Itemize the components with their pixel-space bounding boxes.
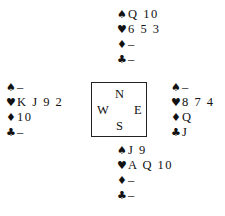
compass-north: N <box>115 87 124 102</box>
heart-icon: ♥ <box>6 95 17 110</box>
spade-icon: ♠ <box>117 7 128 22</box>
west-hand: ♠– ♥K J 9 2 ♦10 ♣– <box>6 80 63 140</box>
heart-icon: ♥ <box>117 158 128 173</box>
compass-south: S <box>116 119 123 134</box>
north-hand: ♠Q 10 ♥6 5 3 ♦– ♣– <box>117 7 161 67</box>
north-diamonds: ♦– <box>117 37 161 52</box>
north-hearts: ♥6 5 3 <box>117 22 161 37</box>
south-spades: ♠J 9 <box>117 143 173 158</box>
east-clubs: ♣J <box>171 125 215 140</box>
spade-icon: ♠ <box>6 80 17 95</box>
heart-icon: ♥ <box>117 22 128 37</box>
compass-east: E <box>134 103 142 118</box>
spade-icon: ♠ <box>171 80 182 95</box>
club-icon: ♣ <box>171 125 182 140</box>
east-hearts: ♥8 7 4 <box>171 95 215 110</box>
compass-west: W <box>97 103 109 118</box>
club-icon: ♣ <box>117 52 128 67</box>
club-icon: ♣ <box>117 188 128 203</box>
spade-icon: ♠ <box>117 143 128 158</box>
south-hand: ♠J 9 ♥A Q 10 ♦– ♣– <box>117 143 173 203</box>
diamond-icon: ♦ <box>117 173 128 188</box>
compass-box: N W E S <box>91 82 147 137</box>
south-diamonds: ♦– <box>117 173 173 188</box>
south-hearts: ♥A Q 10 <box>117 158 173 173</box>
west-clubs: ♣– <box>6 125 63 140</box>
east-spades: ♠– <box>171 80 215 95</box>
south-clubs: ♣– <box>117 188 173 203</box>
north-spades: ♠Q 10 <box>117 7 161 22</box>
north-clubs: ♣– <box>117 52 161 67</box>
east-diamonds: ♦Q <box>171 110 215 125</box>
diamond-icon: ♦ <box>6 110 17 125</box>
west-spades: ♠– <box>6 80 63 95</box>
heart-icon: ♥ <box>171 95 182 110</box>
diamond-icon: ♦ <box>171 110 182 125</box>
diamond-icon: ♦ <box>117 37 128 52</box>
club-icon: ♣ <box>6 125 17 140</box>
west-hearts: ♥K J 9 2 <box>6 95 63 110</box>
east-hand: ♠– ♥8 7 4 ♦Q ♣J <box>171 80 215 140</box>
west-diamonds: ♦10 <box>6 110 63 125</box>
